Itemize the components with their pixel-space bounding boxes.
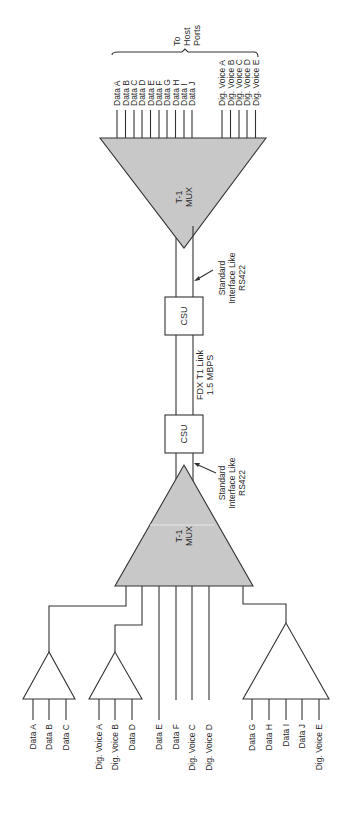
- svg-text:Data I: Data I: [281, 724, 291, 747]
- svg-text:Ports: Ports: [192, 24, 202, 46]
- host-ports-label-line-2: Host: [182, 27, 192, 46]
- svg-text:Data B: Data B: [44, 724, 54, 750]
- svg-text:Data J: Data J: [297, 724, 307, 749]
- svg-text:MUX: MUX: [184, 526, 194, 546]
- sub-mux-1-input-a: Data A: [28, 724, 38, 750]
- sub-mux-3-input-voice-e: Dig. Voice E: [314, 724, 324, 771]
- sub-mux-3-input-data-i: Data I: [281, 724, 291, 747]
- svg-text:Dig. Voice C: Dig. Voice C: [187, 724, 197, 771]
- sub-mux-2-input-data-d: Data D: [127, 724, 137, 750]
- svg-text:Dig. Voice B: Dig. Voice B: [110, 724, 120, 771]
- svg-text:Standard: Standard: [217, 260, 227, 295]
- svg-text:Data G: Data G: [247, 724, 257, 751]
- direct-input-data-f: Data F: [171, 724, 181, 750]
- host-ports-label-line-1: To: [172, 36, 182, 46]
- top-mux-label-line-2: MUX: [184, 187, 194, 207]
- svg-text:Standard: Standard: [217, 465, 227, 500]
- svg-text:RS422: RS422: [237, 470, 247, 496]
- bottom-mux-connectors: [49, 586, 286, 700]
- link-label-line-2: 1.5 MBPS: [205, 355, 215, 396]
- bottom-interface-line-3: RS422: [237, 470, 247, 496]
- top-mux-label-line-1: T-1: [174, 190, 184, 203]
- svg-text:Dig. Voice E: Dig. Voice E: [251, 59, 261, 106]
- svg-text:Data J: Data J: [187, 81, 197, 106]
- svg-text:1.5 MBPS: 1.5 MBPS: [205, 355, 215, 396]
- sub-mux-3-input-data-h: Data H: [264, 724, 274, 750]
- top-csu: CSU: [165, 297, 203, 335]
- svg-text:Data F: Data F: [171, 724, 181, 750]
- svg-text:Dig. Voice E: Dig. Voice E: [314, 724, 324, 771]
- host-voice-ports: Dig. Voice A Dig. Voice B Dig. Voice C D…: [217, 59, 261, 138]
- host-data-ports: Data A Data B Data C Data D Data E Data …: [112, 79, 197, 138]
- host-data-j-label: Data J: [187, 81, 197, 106]
- host-ports-bracket: [112, 49, 258, 57]
- top-interface-annotation: Standard Interface Like RS422: [194, 252, 247, 303]
- svg-text:Interface Like: Interface Like: [227, 457, 237, 508]
- bottom-mux-label-line-1: T-1: [174, 529, 184, 542]
- svg-text:Dig. Voice A: Dig. Voice A: [94, 724, 104, 770]
- top-interface-line-1: Standard: [217, 260, 227, 295]
- sub-mux-3: Data G Data H Data I Data J Dig. Voice E: [243, 623, 329, 770]
- direct-input-data-e: Data E: [154, 724, 164, 750]
- svg-text:FDX T1 Link: FDX T1 Link: [195, 350, 205, 400]
- sub-mux-1-input-c: Data C: [61, 724, 71, 750]
- top-interface-line-3: RS422: [237, 265, 247, 291]
- svg-text:Interface Like: Interface Like: [227, 252, 237, 303]
- svg-text:Data A: Data A: [28, 724, 38, 750]
- svg-text:MUX: MUX: [184, 187, 194, 207]
- svg-text:Data E: Data E: [154, 724, 164, 750]
- bottom-mux-label-line-2: MUX: [184, 526, 194, 546]
- svg-text:CSU: CSU: [179, 424, 189, 443]
- bottom-csu: CSU: [165, 415, 203, 453]
- host-ports-label: To Host Ports: [172, 24, 202, 46]
- top-interface-line-2: Interface Like: [227, 252, 237, 303]
- bottom-csu-label: CSU: [179, 424, 189, 443]
- top-t1-mux: T-1 MUX: [100, 138, 266, 248]
- t1-mux-network-diagram: To Host Ports Data A Data B Data C Data …: [0, 0, 349, 819]
- svg-text:To: To: [172, 36, 182, 46]
- sub-mux-2: Dig. Voice A Dig. Voice B Data D: [89, 652, 142, 770]
- svg-text:CSU: CSU: [179, 306, 189, 325]
- svg-text:T-1: T-1: [174, 529, 184, 542]
- bottom-interface-line-2: Interface Like: [227, 457, 237, 508]
- bottom-interface-line-1: Standard: [217, 465, 227, 500]
- sub-mux-3-input-data-g: Data G: [247, 724, 257, 751]
- svg-text:Dig. Voice D: Dig. Voice D: [204, 724, 214, 771]
- sub-mux-1-input-b: Data B: [44, 724, 54, 750]
- link-label-line-1: FDX T1 Link: [195, 350, 205, 400]
- direct-inputs: Data E Data F Dig. Voice C Dig. Voice D: [154, 700, 214, 771]
- svg-text:T-1: T-1: [174, 190, 184, 203]
- svg-text:Host: Host: [182, 27, 192, 46]
- sub-mux-2-input-voice-b: Dig. Voice B: [110, 724, 120, 771]
- sub-mux-1: Data A Data B Data C: [23, 652, 75, 750]
- direct-input-voice-d: Dig. Voice D: [204, 724, 214, 771]
- host-voice-e-label: Dig. Voice E: [251, 59, 261, 106]
- svg-text:Data C: Data C: [61, 724, 71, 750]
- svg-text:Data D: Data D: [127, 724, 137, 750]
- direct-input-voice-c: Dig. Voice C: [187, 724, 197, 771]
- top-csu-label: CSU: [179, 306, 189, 325]
- svg-text:Data H: Data H: [264, 724, 274, 750]
- host-ports-label-line-3: Ports: [192, 24, 202, 46]
- sub-mux-3-input-data-j: Data J: [297, 724, 307, 749]
- sub-mux-2-input-voice-a: Dig. Voice A: [94, 724, 104, 770]
- link-label: FDX T1 Link 1.5 MBPS: [195, 350, 215, 400]
- svg-text:RS422: RS422: [237, 265, 247, 291]
